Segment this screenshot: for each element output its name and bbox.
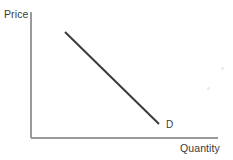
artifact-speck-icon: [207, 87, 210, 90]
y-axis-label: Price: [4, 9, 28, 20]
demand-curve-figure: Price Quantity D: [0, 0, 233, 160]
artifact-speck-icon: [221, 67, 224, 70]
plot-area: [0, 0, 233, 160]
demand-curve-label: D: [166, 120, 173, 130]
demand-curve-line: [65, 32, 159, 124]
x-axis-label: Quantity: [180, 143, 220, 154]
